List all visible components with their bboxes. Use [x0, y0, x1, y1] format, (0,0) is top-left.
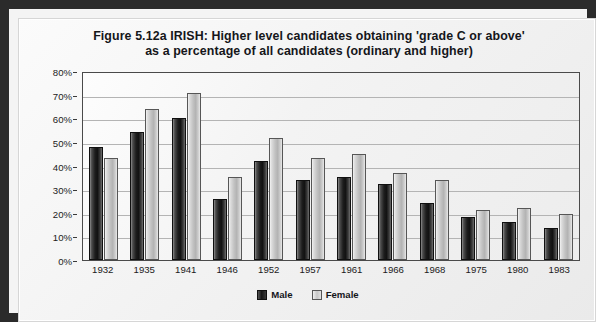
bar-female-1980[interactable] — [517, 208, 531, 260]
figure-frame: Figure 5.12a IRISH: Higher level candida… — [0, 0, 596, 322]
y-axis-tick-label: 20% — [53, 208, 72, 219]
y-axis-tick-mark — [73, 190, 77, 191]
bar-female-1946[interactable] — [228, 177, 242, 260]
bar-group-1968 — [414, 73, 455, 260]
bar-male-1946[interactable] — [213, 199, 227, 260]
bar-male-1957[interactable] — [296, 180, 310, 260]
bar-female-1941[interactable] — [187, 93, 201, 260]
y-axis-tick-mark — [73, 237, 77, 238]
bar-female-1957[interactable] — [311, 158, 325, 260]
y-axis-tick-mark — [73, 72, 77, 73]
bar-male-1980[interactable] — [502, 222, 516, 260]
y-axis-tick-label: 80% — [53, 67, 72, 78]
y-axis: 0%10%20%30%40%50%60%70%80% — [37, 66, 77, 267]
legend-label-female: Female — [326, 289, 359, 300]
bars-layer — [83, 73, 579, 260]
bar-group-1966 — [372, 73, 413, 260]
y-axis-tick-label: 40% — [53, 161, 72, 172]
y-axis-tick-label: 30% — [53, 185, 72, 196]
y-axis-tick-mark — [73, 143, 77, 144]
bar-group-1952 — [248, 73, 289, 260]
x-axis-tick-label-1980: 1980 — [497, 264, 539, 280]
bar-group-1932 — [83, 73, 124, 260]
legend-item-female[interactable]: Female — [312, 289, 359, 300]
bar-male-1941[interactable] — [172, 118, 186, 260]
bar-female-1968[interactable] — [435, 180, 449, 260]
x-axis-tick-label-1941: 1941 — [165, 264, 207, 280]
bar-female-1983[interactable] — [559, 214, 573, 260]
legend-swatch-icon-female — [312, 290, 322, 300]
plot-wrapper — [82, 72, 580, 261]
bar-group-1975 — [455, 73, 496, 260]
x-axis-tick-label-1957: 1957 — [290, 264, 332, 280]
bar-male-1935[interactable] — [130, 132, 144, 260]
bar-male-1966[interactable] — [378, 184, 392, 260]
bar-group-1957 — [290, 73, 331, 260]
x-axis-tick-label-1946: 1946 — [207, 264, 249, 280]
bar-female-1961[interactable] — [352, 154, 366, 260]
bar-group-1935 — [124, 73, 165, 260]
bar-female-1935[interactable] — [145, 109, 159, 260]
bar-male-1961[interactable] — [337, 177, 351, 260]
x-axis-tick-label-1975: 1975 — [456, 264, 498, 280]
bar-group-1941 — [166, 73, 207, 260]
x-axis-tick-label-1961: 1961 — [331, 264, 373, 280]
bar-male-1983[interactable] — [544, 228, 558, 260]
bar-male-1975[interactable] — [461, 217, 475, 260]
bar-group-1983 — [538, 73, 579, 260]
y-axis-tick-mark — [73, 261, 77, 262]
x-axis-tick-label-1935: 1935 — [124, 264, 166, 280]
x-axis-tick-label-1968: 1968 — [414, 264, 456, 280]
legend-label-male: Male — [271, 289, 292, 300]
y-axis-tick-label: 0% — [58, 256, 72, 267]
bar-female-1952[interactable] — [269, 138, 283, 260]
plot-area — [82, 72, 580, 261]
x-axis-tick-label-1952: 1952 — [248, 264, 290, 280]
y-axis-tick-mark — [73, 119, 77, 120]
bar-male-1968[interactable] — [420, 203, 434, 260]
bar-group-1980 — [496, 73, 537, 260]
y-axis-tick-mark — [73, 167, 77, 168]
y-axis-tick-label: 10% — [53, 232, 72, 243]
y-axis-tick-label: 50% — [53, 137, 72, 148]
chart-title-line-2: as a percentage of all candidates (ordin… — [49, 44, 569, 59]
bar-group-1946 — [207, 73, 248, 260]
figure-panel: Figure 5.12a IRISH: Higher level candida… — [18, 18, 596, 322]
y-axis-tick-label: 60% — [53, 114, 72, 125]
x-axis-tick-label-1966: 1966 — [373, 264, 415, 280]
bar-male-1932[interactable] — [89, 147, 103, 260]
bar-female-1966[interactable] — [393, 173, 407, 260]
x-axis: 1932193519411946195219571961196619681975… — [82, 264, 580, 280]
bar-female-1932[interactable] — [104, 158, 118, 260]
bar-male-1952[interactable] — [254, 161, 268, 260]
chart-title: Figure 5.12a IRISH: Higher level candida… — [49, 29, 569, 59]
bar-female-1975[interactable] — [476, 210, 490, 260]
chart-title-line-1: Figure 5.12a IRISH: Higher level candida… — [49, 29, 569, 44]
y-axis-tick-mark — [73, 96, 77, 97]
x-axis-tick-label-1983: 1983 — [539, 264, 581, 280]
bar-group-1961 — [331, 73, 372, 260]
chart-legend: MaleFemale — [19, 289, 596, 300]
legend-item-male[interactable]: Male — [257, 289, 292, 300]
x-axis-tick-label-1932: 1932 — [82, 264, 124, 280]
legend-swatch-icon-male — [257, 290, 267, 300]
y-axis-tick-label: 70% — [53, 90, 72, 101]
y-axis-tick-mark — [73, 214, 77, 215]
